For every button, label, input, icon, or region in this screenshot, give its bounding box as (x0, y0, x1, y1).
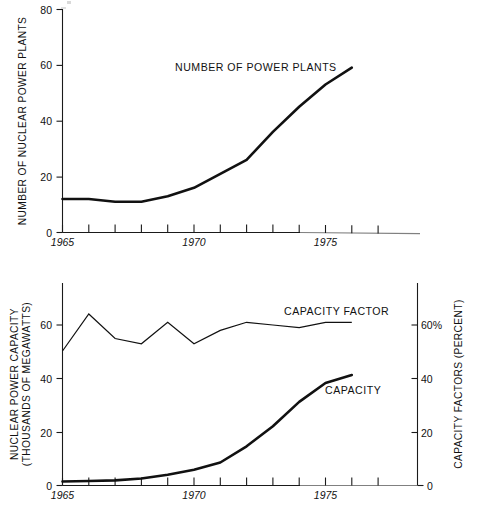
bottom-left-y-ticks (57, 325, 63, 486)
top-ytick-20: 20 (40, 171, 52, 183)
top-ytick-60: 60 (40, 59, 52, 71)
chart-number-of-power-plants: 80 60 40 20 0 1965 (0, 0, 477, 255)
scan-artifact-speck-2 (61, 7, 66, 9)
chart-capacity-and-capacity-factor: 0 20 40 60 0 20 40 60% (0, 262, 477, 505)
bottom-right-ytick-20: 20 (421, 427, 433, 439)
bottom-xtick-1975: 1975 (314, 489, 338, 501)
bottom-right-ytick-0: 0 (427, 480, 433, 492)
bottom-right-ytick-40: 40 (421, 373, 433, 385)
top-series-label: NUMBER OF POWER PLANTS (175, 61, 337, 73)
bottom-series-label-capacity-factor: CAPACITY FACTOR (284, 305, 389, 317)
top-y-axis-title: NUMBER OF NUCLEAR POWER PLANTS (17, 17, 28, 225)
bottom-left-ytick-20: 20 (40, 427, 52, 439)
top-x-axis-tail (300, 233, 420, 234)
bottom-xtick-1965: 1965 (51, 489, 75, 501)
bottom-right-y-axis-title: CAPACITY FACTORS (PERCENT) (453, 299, 464, 468)
bottom-chart-svg: 0 20 40 60 0 20 40 60% (0, 262, 477, 505)
top-chart-svg: 80 60 40 20 0 1965 (0, 0, 477, 255)
top-xtick-1975: 1975 (314, 236, 338, 248)
figure-container: 80 60 40 20 0 1965 (0, 0, 477, 505)
bottom-series-label-capacity: CAPACITY (325, 384, 381, 396)
bottom-series-capacity-factor-line (63, 314, 352, 351)
scan-artifact-speck (67, 1, 71, 4)
bottom-left-ytick-60: 60 (40, 319, 52, 331)
bottom-series-capacity-line (63, 375, 352, 482)
bottom-y-axis-title-line2: (THOUSANDS OF MEGAWATTS) (21, 302, 32, 466)
bottom-y-axis-title-line1: NUCLEAR POWER CAPACITY (9, 308, 20, 460)
top-xtick-1970: 1970 (182, 236, 206, 248)
bottom-xtick-1970: 1970 (182, 489, 206, 501)
top-series-line (63, 68, 352, 202)
top-ytick-80: 80 (40, 4, 52, 16)
bottom-right-ytick-60: 60% (421, 319, 442, 331)
top-xtick-1965: 1965 (51, 236, 75, 248)
top-ytick-40: 40 (40, 115, 52, 127)
bottom-left-ytick-40: 40 (40, 373, 52, 385)
